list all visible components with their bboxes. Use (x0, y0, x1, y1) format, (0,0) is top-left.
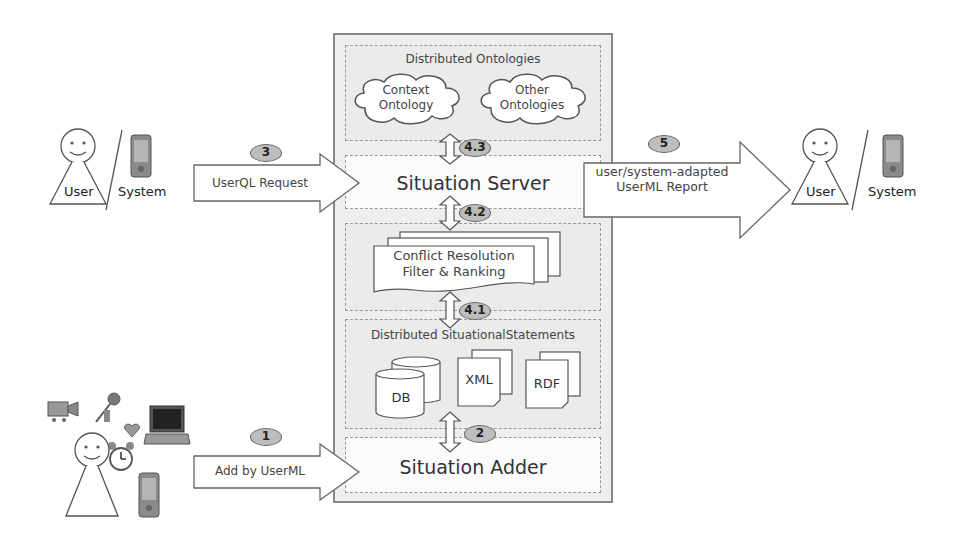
add-by-userml-label: Add by UserML (197, 464, 323, 479)
report-line1: user/system-adapted (587, 164, 737, 179)
situation-server-title: Situation Server (346, 172, 600, 194)
system-label-right: System (868, 184, 916, 199)
other-ontologies-line1: Other (482, 83, 582, 98)
other-ontologies-label: Other Ontologies (482, 83, 582, 113)
conflict-line1: Conflict Resolution (374, 248, 534, 264)
separator-slash-right (850, 128, 870, 212)
other-ontologies-line2: Ontologies (482, 98, 582, 113)
context-ontology-label: Context Ontology (356, 83, 456, 113)
separator-slash-left (104, 128, 124, 212)
system-label-left: System (118, 184, 166, 199)
statements-section: Distributed SituationalStatements DB XML… (345, 319, 601, 429)
situation-server-section: Situation Server (345, 155, 601, 209)
step-badge-4-3: 4.3 (459, 139, 491, 157)
context-ontology-line2: Ontology (356, 98, 456, 113)
step-badge-4-1: 4.1 (459, 302, 491, 320)
pda-device-icon (138, 472, 160, 518)
rdf-label: RDF (526, 376, 568, 391)
step-badge-4-2: 4.2 (459, 204, 491, 222)
database-icon (374, 356, 444, 420)
laptop-icon (144, 404, 190, 446)
step-badge-2: 2 (464, 425, 496, 443)
pda-device-icon (130, 134, 152, 178)
situation-adder-section: Situation Adder (345, 437, 601, 493)
situation-adder-title: Situation Adder (346, 456, 600, 478)
context-ontology-line1: Context (356, 83, 456, 98)
conflict-resolution-section: Conflict Resolution Filter & Ranking (345, 223, 601, 311)
statements-title: Distributed SituationalStatements (346, 328, 600, 342)
ontologies-section: Distributed Ontologies Context Ontology … (345, 45, 601, 141)
video-camera-icon (46, 398, 80, 422)
db-label: DB (378, 390, 424, 405)
userql-request-label: UserQL Request (197, 176, 323, 191)
report-line2: UserML Report (587, 179, 737, 194)
double-arrow-2-icon (438, 412, 462, 452)
microphone-icon (92, 392, 122, 426)
pda-device-icon (882, 134, 904, 178)
heart-icon (124, 422, 140, 438)
conflict-line2: Filter & Ranking (374, 264, 534, 280)
user-stick-figure-icon (62, 430, 124, 520)
user-label-right: User (806, 184, 836, 199)
user-label-left: User (64, 184, 94, 199)
userml-report-label: user/system-adapted UserML Report (587, 164, 737, 194)
xml-label: XML (458, 372, 500, 387)
ontologies-title: Distributed Ontologies (346, 52, 600, 66)
conflict-resolution-label: Conflict Resolution Filter & Ranking (374, 248, 534, 280)
